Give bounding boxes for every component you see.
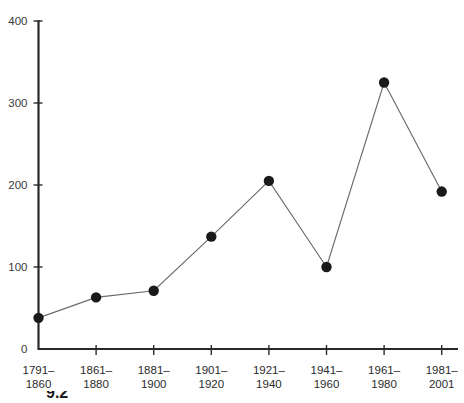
data-point-marker xyxy=(91,292,101,302)
data-point-marker xyxy=(33,313,43,323)
data-point-marker xyxy=(321,262,331,272)
data-point-marker xyxy=(379,77,389,87)
y-tick-label: 300 xyxy=(8,97,27,109)
y-tick-label: 0 xyxy=(21,343,27,355)
line-chart: 0100200300400 1791–18601861–18801881–190… xyxy=(0,0,464,403)
data-point-marker xyxy=(149,286,159,296)
y-tick-label: 200 xyxy=(8,179,27,191)
y-tick-label: 100 xyxy=(8,261,27,273)
figure-container: 0100200300400 1791–18601861–18801881–190… xyxy=(0,0,464,403)
data-point-marker xyxy=(264,176,274,186)
data-point-marker xyxy=(206,231,216,241)
data-point-marker xyxy=(437,186,447,196)
chart-background xyxy=(0,0,464,403)
y-tick-label: 400 xyxy=(8,15,27,27)
